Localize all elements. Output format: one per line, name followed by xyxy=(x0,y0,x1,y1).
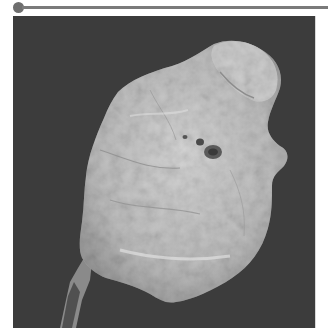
rule-line xyxy=(22,6,328,9)
specimen-photo xyxy=(13,16,316,328)
specimen-illustration xyxy=(13,16,315,328)
